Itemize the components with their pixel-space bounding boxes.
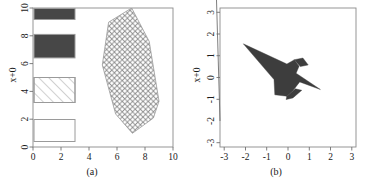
shape-rect-solid-top (34, 9, 75, 20)
panel-b-plot: -3 -2 -1 0 1 2 3 -3 -2 -1 0 (184, 0, 368, 193)
panel-b-x-ticks: -3 -2 -1 0 1 2 3 (220, 147, 354, 162)
shape-polygon-crosshatched (102, 8, 159, 133)
figure-container: 0 2 4 6 8 10 0 2 4 6 8 10 (0, 0, 368, 193)
panel-a-xtick-2: 2 (59, 152, 64, 162)
panel-b-xtick-1: 1 (307, 152, 312, 162)
shape-rect-open (34, 120, 75, 142)
shape-rect-solid-second (34, 34, 75, 58)
panel-b: -3 -2 -1 0 1 2 3 -3 -2 -1 0 (184, 0, 368, 193)
panel-a-xtick-10: 10 (168, 152, 178, 162)
panel-a-shapes (34, 8, 159, 142)
panel-b-ytick-3: 3 (206, 10, 216, 15)
panel-a: 0 2 4 6 8 10 0 2 4 6 8 10 (0, 0, 184, 193)
panel-a-xtick-0: 0 (31, 152, 36, 162)
panel-b-ytick-2: 2 (206, 31, 216, 36)
panel-a-ytick-4: 4 (20, 89, 30, 94)
panel-a-ylabel: x+0 (8, 55, 18, 95)
panel-a-x-ticks: 0 2 4 6 8 10 (31, 147, 178, 162)
panel-b-ytick-m3: -3 (206, 138, 216, 146)
panel-a-ytick-2: 2 (20, 117, 30, 122)
panel-b-ytick-1: 1 (206, 53, 216, 58)
panel-a-xtick-6: 6 (115, 152, 120, 162)
panel-a-caption: (a) (0, 166, 184, 177)
panel-b-xtick-0: 0 (286, 152, 291, 162)
panel-b-caption: (b) (184, 166, 368, 177)
panel-b-y-ticks: -3 -2 -1 0 1 2 3 (206, 0, 220, 147)
panel-b-xtick-2: 2 (328, 152, 333, 162)
panel-b-xtick-m3: -3 (220, 152, 228, 162)
shape-rect-hatched (34, 78, 75, 103)
shape-polygon-dart-main (243, 44, 320, 96)
panel-b-xtick-3: 3 (349, 152, 354, 162)
panel-b-ytick-0: 0 (206, 75, 216, 80)
panel-b-ytick-m2: -2 (206, 117, 216, 125)
panel-a-y-ticks: 0 2 4 6 8 10 (20, 3, 33, 149)
panel-b-ylabel: x+0 (192, 55, 202, 95)
panel-a-xtick-4: 4 (87, 152, 92, 162)
panel-a-ytick-6: 6 (20, 61, 30, 66)
panel-b-shapes (243, 44, 320, 100)
panel-a-plot: 0 2 4 6 8 10 0 2 4 6 8 10 (0, 0, 184, 193)
panel-b-xtick-m2: -2 (242, 152, 250, 162)
panel-a-ytick-0: 0 (20, 144, 30, 149)
panel-a-ytick-10: 10 (20, 3, 30, 13)
panel-b-ytick-m1: -1 (206, 95, 216, 103)
panel-a-xtick-8: 8 (143, 152, 148, 162)
panel-b-xtick-m1: -1 (263, 152, 271, 162)
panel-a-ytick-8: 8 (20, 33, 30, 38)
